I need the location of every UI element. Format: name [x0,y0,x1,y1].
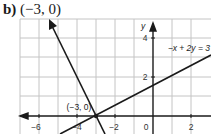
y-tick-label: 4 [143,33,148,43]
coordinate-graph: −6 −4 −2 0 2 4 2 y (−3, 0) −x + 2y = 3 [0,0,211,134]
x-tick-label: 2 [189,122,194,132]
x-tick-label: 0 [144,122,149,132]
x-tick-label: −6 [31,122,41,132]
y-axis-arrow-icon [150,23,156,31]
y-axis-label: y [140,21,146,31]
y-tick-label: 2 [143,72,148,82]
intersection-label: (−3, 0) [67,102,92,112]
x-axis-arrow-icon [20,113,28,119]
intersection-point [94,114,98,118]
equation-label: −x + 2y = 3 [168,43,211,53]
x-tick-label: −2 [109,122,119,132]
